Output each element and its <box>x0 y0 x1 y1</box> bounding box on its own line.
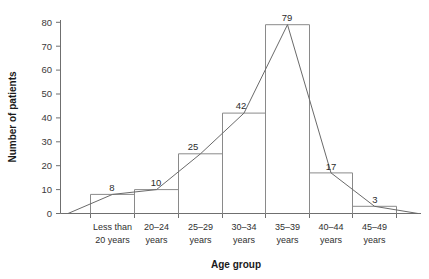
x-category-label-line2: 20 years <box>95 235 130 245</box>
data-label: 8 <box>109 182 114 193</box>
x-category-label-line1: 45–49 <box>362 222 387 232</box>
data-label: 3 <box>372 194 377 205</box>
x-category-label-line2: years <box>320 235 343 245</box>
y-axis-ticks <box>56 22 61 213</box>
x-category-label-line1: 35–39 <box>275 222 300 232</box>
y-tick-label: 70 <box>41 41 52 52</box>
x-axis-title: Age group <box>211 259 261 270</box>
bar-25-29-years <box>179 154 223 214</box>
x-axis-ticks <box>91 214 397 219</box>
x-category-label-line1: 30–34 <box>231 222 256 232</box>
data-value-labels: 8 10 25 42 79 17 3 <box>109 12 377 205</box>
x-category-label-line1: Less than <box>93 222 132 232</box>
x-axis-category-labels: Less than 20 years 20–24 years 25–29 yea… <box>93 222 387 245</box>
bar-30-34-years <box>223 113 266 213</box>
data-label: 17 <box>326 161 337 172</box>
bar-45-49-years <box>353 206 397 213</box>
y-tick-label: 80 <box>41 17 52 28</box>
bar-35-39-years <box>266 25 310 214</box>
data-label: 79 <box>282 12 293 23</box>
x-category-label-line2: years <box>233 235 256 245</box>
bars-group <box>91 25 397 214</box>
bar-20-24-years <box>135 190 179 214</box>
chart-figure: 0 10 20 30 40 50 60 70 80 Number of pati… <box>0 0 429 279</box>
y-axis-title: Number of patients <box>7 71 18 163</box>
y-tick-label: 50 <box>41 88 52 99</box>
x-category-label-line2: years <box>363 235 386 245</box>
y-tick-label: 40 <box>41 112 52 123</box>
x-category-label-line2: years <box>276 235 299 245</box>
bar-less-than-20-years <box>91 194 135 213</box>
x-category-label-line1: 40–44 <box>318 222 343 232</box>
bar-40-44-years <box>310 173 353 214</box>
y-tick-label: 0 <box>47 208 52 219</box>
y-tick-label: 10 <box>41 184 52 195</box>
x-category-label-line2: years <box>189 235 212 245</box>
x-category-label-line1: 25–29 <box>188 222 213 232</box>
data-label: 42 <box>236 100 247 111</box>
x-category-label-line2: years <box>145 235 168 245</box>
frequency-polygon-line <box>68 25 418 214</box>
histogram-chart: 0 10 20 30 40 50 60 70 80 Number of pati… <box>0 0 429 279</box>
y-tick-label: 30 <box>41 136 52 147</box>
y-tick-label: 60 <box>41 64 52 75</box>
data-label: 25 <box>188 141 199 152</box>
y-axis-tick-labels: 0 10 20 30 40 50 60 70 80 <box>41 17 52 219</box>
x-category-label-line1: 20–24 <box>144 222 169 232</box>
data-label: 10 <box>151 177 162 188</box>
y-tick-label: 20 <box>41 160 52 171</box>
